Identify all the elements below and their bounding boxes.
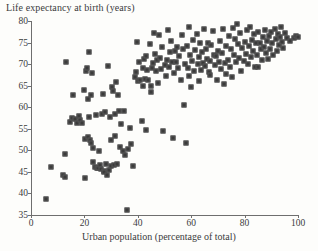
data-point [184, 44, 189, 49]
data-point [153, 68, 158, 73]
y-tick-label: 45 [8, 167, 28, 177]
data-point [134, 69, 139, 74]
data-point [174, 59, 179, 64]
data-point [216, 59, 221, 64]
y-tick-label: 70 [8, 59, 28, 69]
data-point [115, 161, 120, 166]
data-point [163, 74, 168, 79]
y-tick-mark [28, 107, 31, 108]
data-point [219, 66, 224, 71]
data-point [129, 141, 134, 146]
data-point [185, 66, 190, 71]
data-point [86, 49, 91, 54]
data-point [190, 59, 195, 64]
data-point [193, 48, 198, 53]
data-point [175, 44, 180, 49]
data-point [227, 65, 232, 70]
data-point [105, 63, 110, 68]
data-point [122, 109, 127, 114]
data-point [143, 53, 148, 58]
data-point [114, 79, 119, 84]
data-point [139, 119, 144, 124]
data-point [63, 152, 68, 157]
data-point [220, 50, 225, 55]
data-point [112, 133, 117, 138]
data-point [166, 64, 171, 69]
data-point [149, 89, 154, 94]
x-tick-label: 40 [133, 218, 143, 228]
y-tick-mark [28, 129, 31, 130]
data-point [82, 175, 87, 180]
y-tick-label: 60 [8, 102, 28, 112]
data-point [144, 128, 149, 133]
data-point [189, 84, 194, 89]
data-point [202, 26, 207, 31]
data-point [222, 81, 227, 86]
x-axis-label: Urban population (percentage of total) [0, 231, 318, 242]
data-point [117, 108, 122, 113]
data-point [156, 81, 161, 86]
data-point [164, 57, 169, 62]
x-tick-label: 20 [80, 218, 90, 228]
data-point [296, 34, 301, 39]
y-tick-label: 75 [8, 38, 28, 48]
data-point [148, 84, 153, 89]
data-point [279, 39, 284, 44]
data-point [177, 53, 182, 58]
data-point [171, 136, 176, 141]
data-point [197, 41, 202, 46]
data-point [191, 37, 196, 42]
data-point [266, 56, 271, 61]
data-point [119, 122, 124, 127]
y-tick-label: 80 [8, 16, 28, 26]
x-axis-tick-labels: 020406080100 [0, 218, 318, 232]
y-tick-mark [28, 21, 31, 22]
x-tick-label: 60 [186, 218, 196, 228]
data-point [238, 31, 243, 36]
data-point [249, 54, 254, 59]
data-point [207, 73, 212, 78]
data-point [127, 125, 132, 130]
data-point [90, 70, 95, 75]
data-point [93, 112, 98, 117]
data-point [147, 42, 152, 47]
data-point [261, 44, 266, 49]
y-tick-label: 55 [8, 124, 28, 134]
data-point [209, 43, 214, 48]
y-axis-line [31, 21, 32, 215]
data-point [181, 102, 186, 107]
data-point [135, 39, 140, 44]
x-tick-mark [191, 215, 192, 218]
data-point [240, 45, 245, 50]
data-point [63, 175, 68, 180]
data-point [126, 147, 131, 152]
data-point [245, 62, 250, 67]
data-point [225, 57, 230, 62]
data-point [218, 38, 223, 43]
data-point [231, 53, 236, 58]
data-point [109, 137, 114, 142]
data-point [44, 196, 49, 201]
data-point [179, 32, 184, 37]
data-point [274, 48, 279, 53]
data-point [160, 45, 165, 50]
data-point [278, 24, 283, 29]
data-point [283, 30, 288, 35]
data-point [226, 34, 231, 39]
data-point [210, 29, 215, 34]
data-point [89, 92, 94, 97]
data-point [146, 78, 151, 83]
data-point [262, 27, 267, 32]
data-point [228, 47, 233, 52]
x-tick-label: 0 [29, 218, 34, 228]
data-point [90, 146, 95, 151]
data-point [229, 75, 234, 80]
data-point [176, 65, 181, 70]
data-point [49, 164, 54, 169]
data-point [214, 78, 219, 83]
data-point [158, 56, 163, 61]
data-point [196, 55, 201, 60]
data-point [204, 46, 209, 51]
data-point [246, 43, 251, 48]
y-axis-tick-labels: 35404550556065707580 [4, 0, 28, 251]
